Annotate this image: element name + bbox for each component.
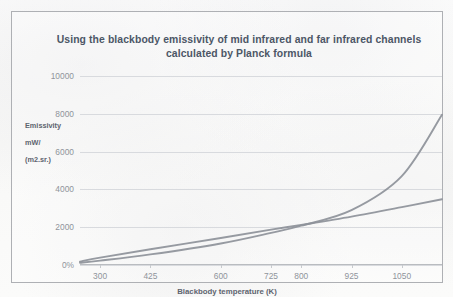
y-axis-tick-label: 10000 (51, 71, 74, 81)
plot-area: 0%200040006000800010000 3004256007258009… (80, 76, 442, 265)
x-axis-tick-label: 800 (294, 271, 308, 281)
x-axis-tick-label: 1050 (392, 271, 411, 281)
series-line (80, 199, 442, 261)
chart-title: Using the blackbody emissivity of mid in… (36, 33, 442, 60)
x-axis-tick-mark (221, 265, 222, 268)
series-lines (80, 76, 442, 265)
x-axis-tick-label: 425 (143, 271, 157, 281)
x-axis-title: Blackbody temperature (K) (12, 287, 442, 296)
x-axis-tick-label: 725 (264, 271, 278, 281)
gridline (80, 265, 442, 266)
chart-title-line-2: calculated by Planck formula (36, 47, 442, 61)
x-axis-tick-label: 925 (345, 271, 359, 281)
y-axis-tick-label: 0% (62, 260, 74, 270)
x-axis-tick-mark (352, 265, 353, 268)
chart-frame: Using the blackbody emissivity of mid in… (11, 11, 443, 283)
y-axis-tick-label: 8000 (55, 109, 74, 119)
y-axis-title: Emissivity mW/ (m2.sr.) (25, 113, 61, 173)
y-axis-title-line-1: Emissivity (25, 122, 61, 131)
x-axis-tick-mark (271, 265, 272, 268)
chart-title-line-1: Using the blackbody emissivity of mid in… (36, 33, 442, 47)
x-axis-tick-mark (402, 265, 403, 268)
y-axis-title-line-3: (m2.sr.) (25, 156, 61, 165)
series-line (80, 115, 442, 263)
y-axis-tick-label: 2000 (55, 222, 74, 232)
x-axis-tick-mark (150, 265, 151, 268)
y-axis-tick-label: 6000 (55, 147, 74, 157)
y-axis-tick-label: 4000 (55, 184, 74, 194)
x-axis-tick-mark (100, 265, 101, 268)
x-axis-tick-mark (301, 265, 302, 268)
x-axis-tick-label: 600 (214, 271, 228, 281)
x-axis-tick-label: 300 (93, 271, 107, 281)
